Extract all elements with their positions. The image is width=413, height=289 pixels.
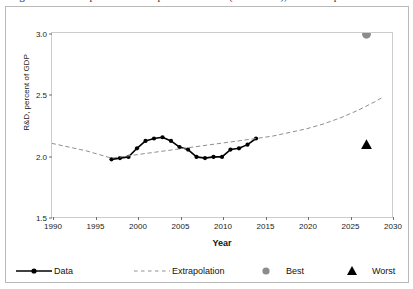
chart-title: Figure 3. R&D expenditures as a percent …	[10, 0, 400, 2]
data-point-data	[237, 146, 241, 150]
y-tick-mark	[49, 156, 52, 157]
x-tick-label: 1990	[44, 222, 62, 231]
data-point-data	[143, 139, 147, 143]
legend-entry-worst: Worst	[332, 263, 395, 279]
legend-key-circle-line-icon	[14, 264, 54, 278]
legend-key-triangle-icon	[332, 264, 372, 278]
y-axis-label: R&D, percent of GDP	[22, 23, 31, 163]
y-tick-label: 2.0	[36, 152, 47, 161]
chart-figure: Figure 3. R&D expenditures as a percent …	[0, 0, 413, 289]
chart-legend: DataExtrapolationBestWorst	[14, 263, 399, 279]
y-tick-label: 3.0	[36, 30, 47, 39]
legend-marker	[347, 266, 357, 275]
data-point-data	[194, 155, 198, 159]
x-tick-label: 2015	[257, 222, 275, 231]
plot-area: 1.52.02.53.01990199520002005201020152020…	[51, 32, 393, 218]
x-tick-mark	[96, 217, 97, 220]
x-tick-mark	[181, 217, 182, 220]
data-point-data	[203, 156, 207, 160]
x-tick-label: 2025	[342, 222, 360, 231]
plot-canvas	[52, 33, 392, 217]
legend-key-dashed-line-icon	[132, 264, 172, 278]
data-point-data	[177, 145, 181, 149]
legend-key-circle-icon	[246, 264, 286, 278]
legend-label: Worst	[372, 266, 395, 276]
legend-marker	[262, 267, 269, 274]
x-tick-mark	[266, 217, 267, 220]
x-tick-mark	[223, 217, 224, 220]
data-point-data	[220, 155, 224, 159]
x-tick-mark	[53, 217, 54, 220]
data-point-best	[362, 33, 371, 39]
legend-label: Data	[54, 266, 73, 276]
data-point-data	[186, 147, 190, 151]
legend-marker	[31, 268, 36, 273]
data-point-data	[228, 147, 232, 151]
legend-entry-data: Data	[14, 263, 73, 279]
data-point-data	[245, 143, 249, 147]
x-axis-label: Year	[51, 238, 393, 248]
y-tick-mark	[49, 218, 52, 219]
data-point-data	[160, 135, 164, 139]
data-point-data	[152, 136, 156, 140]
x-tick-label: 2005	[172, 222, 190, 231]
data-point-data	[211, 155, 215, 159]
x-tick-mark	[351, 217, 352, 220]
x-tick-mark	[393, 217, 394, 220]
x-tick-mark	[308, 217, 309, 220]
y-tick-mark	[49, 34, 52, 35]
x-tick-label: 2030	[384, 222, 402, 231]
x-tick-label: 2020	[299, 222, 317, 231]
x-tick-mark	[138, 217, 139, 220]
data-point-data	[169, 139, 173, 143]
series-line-extrapolation	[52, 97, 384, 158]
legend-entry-extrapolation: Extrapolation	[132, 263, 225, 279]
data-point-data	[135, 146, 139, 150]
x-tick-label: 1995	[87, 222, 105, 231]
data-point-worst	[361, 139, 372, 149]
legend-entry-best: Best	[246, 263, 304, 279]
y-tick-label: 2.5	[36, 91, 47, 100]
legend-label: Best	[286, 266, 304, 276]
y-tick-mark	[49, 95, 52, 96]
x-tick-label: 2000	[129, 222, 147, 231]
x-tick-label: 2010	[214, 222, 232, 231]
legend-label: Extrapolation	[172, 266, 225, 276]
